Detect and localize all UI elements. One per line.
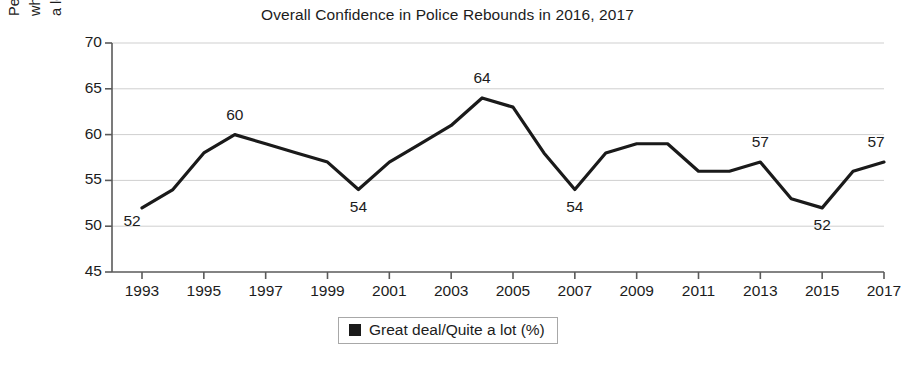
x-axis-tick-label: 2017 (856, 282, 905, 300)
y-axis-tick-label: 65 (60, 79, 102, 97)
legend-swatch-icon (349, 324, 361, 336)
x-axis-tick-label: 1997 (238, 282, 294, 300)
y-axis-tick-label: 45 (60, 262, 102, 280)
x-axis-tick-label: 1995 (176, 282, 232, 300)
data-point-label: 52 (806, 216, 838, 234)
x-axis-tick-label: 2013 (732, 282, 788, 300)
y-axis-tick-label: 55 (60, 170, 102, 188)
legend-label: Great deal/Quite a lot (%) (369, 321, 545, 339)
x-axis-tick-label: 2003 (423, 282, 479, 300)
data-point-label: 57 (860, 133, 892, 151)
x-axis-tick-label: 1999 (300, 282, 356, 300)
y-axis-tick-label: 50 (60, 216, 102, 234)
x-axis-tick-label: 2009 (609, 282, 665, 300)
x-axis-tick-label: 2015 (794, 282, 850, 300)
x-axis-tick-label: 2001 (361, 282, 417, 300)
data-point-label: 57 (744, 133, 776, 151)
y-axis-tick-label: 60 (60, 125, 102, 143)
y-axis-tick-label: 70 (60, 33, 102, 51)
data-point-label: 60 (219, 106, 251, 124)
data-point-label: 52 (116, 212, 148, 230)
series-line (142, 98, 884, 208)
x-axis-tick-label: 1993 (114, 282, 170, 300)
x-axis-tick-label: 2007 (547, 282, 603, 300)
data-point-label: 54 (342, 198, 374, 216)
data-point-label: 64 (466, 69, 498, 87)
data-point-label: 54 (559, 198, 591, 216)
chart-legend: Great deal/Quite a lot (%) (338, 317, 558, 344)
x-axis-tick-label: 2011 (671, 282, 727, 300)
x-axis-tick-label: 2005 (485, 282, 541, 300)
